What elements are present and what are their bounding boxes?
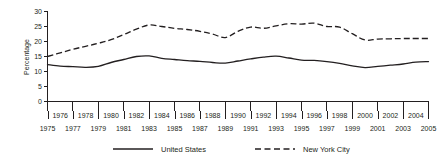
x-axis-upper-tick-label: 1978 (78, 112, 94, 119)
y-axis: 051015202530 (34, 8, 47, 105)
x-axis-upper-tick-label: 1992 (256, 112, 272, 119)
x-axis-upper-tick-label: 1980 (103, 112, 119, 119)
x-axis-upper-tick-label: 1976 (52, 112, 68, 119)
series-line-united-states (48, 56, 429, 68)
y-axis-tick-label: 15 (34, 53, 42, 60)
x-axis-lower-tick-label: 1985 (167, 125, 183, 132)
x-axis-upper-tick-label: 1994 (281, 112, 297, 119)
x-axis-lower-tick-label: 2005 (421, 125, 437, 132)
x-axis: 1976197819801982198419861988199019921994… (40, 102, 437, 132)
y-axis-tick-label: 25 (34, 23, 42, 30)
series-line-new-york-city (48, 23, 429, 56)
y-axis-tick-label: 10 (34, 68, 42, 75)
y-axis-tick-label: 0 (38, 98, 42, 105)
x-axis-upper-tick-label: 1998 (332, 112, 348, 119)
x-axis-lower-tick-label: 1979 (91, 125, 107, 132)
x-axis-lower-tick-label: 2001 (370, 125, 386, 132)
x-axis-lower-tick-label: 1983 (141, 125, 157, 132)
x-axis-lower-tick-label: 1999 (345, 125, 361, 132)
line-chart-figure: 051015202530 197619781980198219841986198… (0, 0, 442, 163)
y-axis-tick-label: 5 (38, 83, 42, 90)
x-axis-lower-tick-label: 2003 (395, 125, 411, 132)
x-axis-upper-tick-label: 2000 (357, 112, 373, 119)
y-axis-tick-label: 30 (34, 8, 42, 15)
x-axis-upper-tick-label: 1996 (306, 112, 322, 119)
y-axis-tick-label: 20 (34, 38, 42, 45)
x-axis-upper-tick-label: 2004 (408, 112, 424, 119)
chart-svg: 051015202530 197619781980198219841986198… (0, 0, 442, 163)
x-axis-lower-tick-label: 1995 (294, 125, 310, 132)
x-axis-upper-tick-label: 1984 (154, 112, 170, 119)
legend-label-united-states: United States (161, 145, 206, 154)
x-axis-lower-tick-label: 1987 (192, 125, 208, 132)
x-axis-upper-tick-label: 1982 (129, 112, 145, 119)
x-axis-lower-tick-label: 1991 (243, 125, 259, 132)
chart-legend: United StatesNew York City (113, 145, 350, 154)
x-axis-upper-tick-label: 1988 (205, 112, 221, 119)
x-axis-lower-tick-label: 1993 (268, 125, 284, 132)
x-axis-lower-tick-label: 1981 (116, 125, 132, 132)
x-axis-lower-tick-label: 1997 (319, 125, 335, 132)
data-series-group (48, 23, 429, 68)
x-axis-lower-tick-label: 1977 (65, 125, 81, 132)
y-axis-title: Percentage (23, 39, 31, 75)
x-axis-upper-tick-label: 2002 (383, 112, 399, 119)
x-axis-lower-tick-label: 1975 (40, 125, 56, 132)
x-axis-upper-tick-label: 1986 (179, 112, 195, 119)
legend-label-new-york-city: New York City (303, 145, 350, 154)
x-axis-upper-tick-label: 1990 (230, 112, 246, 119)
x-axis-lower-tick-label: 1989 (218, 125, 234, 132)
